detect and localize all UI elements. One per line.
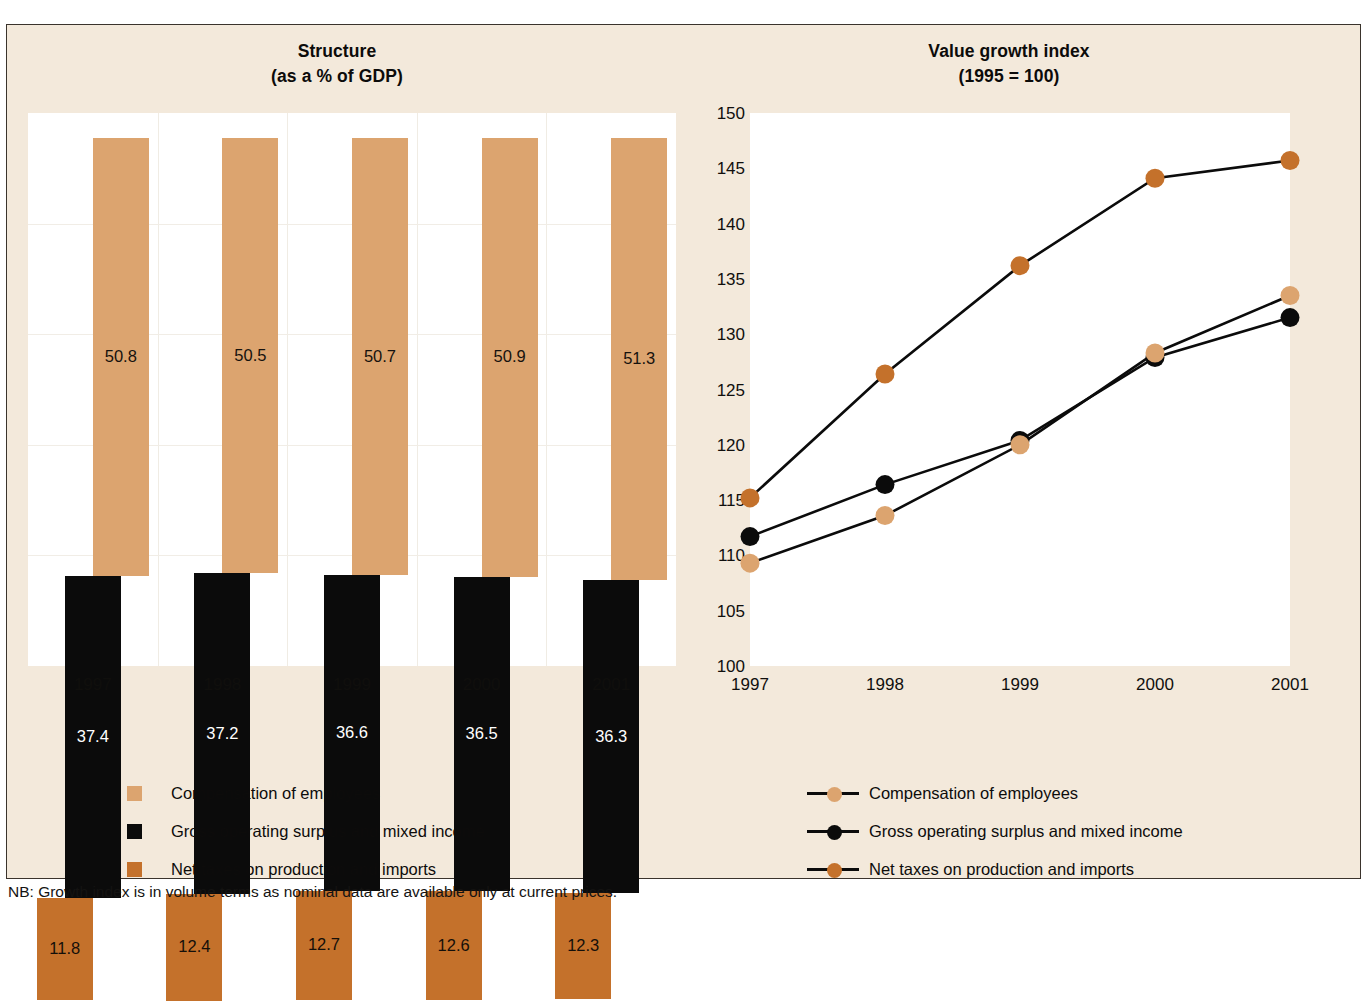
right-chart-x-label-1998: 1998 <box>840 675 930 695</box>
right-chart-lines <box>7 25 1371 880</box>
right-chart-x-label-1999: 1999 <box>975 675 1065 695</box>
right-chart-legend: Compensation of employees Gross operatin… <box>807 777 1347 891</box>
legend-item-gross-operating-surplus-line[interactable]: Gross operating surplus and mixed income <box>807 815 1347 853</box>
right-chart-marker-net-taxes-on-production-and-imports-2000 <box>1146 169 1165 188</box>
right-chart-x-label-2001: 2001 <box>1245 675 1335 695</box>
legend-marker-net-taxes <box>827 863 842 878</box>
legend-marker-gross-operating-surplus <box>827 825 842 840</box>
left-chart-bar-value-net-taxes: 12.7 <box>296 936 352 953</box>
right-chart-marker-compensation-of-employees-1997 <box>741 554 760 573</box>
left-chart-bar-segment-net-taxes: 12.7 <box>296 891 352 1000</box>
left-chart-bar-value-net-taxes: 12.6 <box>426 937 482 954</box>
left-chart-bar-value-net-taxes: 12.4 <box>166 938 222 955</box>
legend-label-gross-operating-surplus-line: Gross operating surplus and mixed income <box>869 823 1183 840</box>
legend-swatch-compensation <box>127 786 142 801</box>
right-chart-marker-net-taxes-on-production-and-imports-1997 <box>741 488 760 507</box>
left-chart-bar-segment-net-taxes: 12.6 <box>426 891 482 1000</box>
right-chart-x-label-2000: 2000 <box>1110 675 1200 695</box>
legend-marker-compensation <box>827 787 842 802</box>
right-chart-marker-compensation-of-employees-1999 <box>1011 435 1030 454</box>
legend-label-net-taxes: Net taxes on production and imports <box>171 861 436 878</box>
legend-item-net-taxes-line[interactable]: Net taxes on production and imports <box>807 853 1347 891</box>
left-chart-bar-segment-net-taxes: 12.3 <box>555 893 611 999</box>
right-chart-marker-gross-operating-surplus-and-mixed-income-1997 <box>741 527 760 546</box>
legend-label-gross-operating-surplus: Gross operating surplus and mixed income <box>171 823 485 840</box>
right-chart-marker-compensation-of-employees-1998 <box>876 506 895 525</box>
figure-panel: Structure (as a % of GDP) Value growth i… <box>6 24 1361 879</box>
legend-label-compensation-line: Compensation of employees <box>869 785 1078 802</box>
right-chart-marker-compensation-of-employees-2000 <box>1146 344 1165 363</box>
legend-swatch-net-taxes <box>127 862 142 877</box>
right-chart-x-label-1997: 1997 <box>705 675 795 695</box>
left-chart-bar-value-net-taxes: 11.8 <box>37 940 93 957</box>
right-chart-marker-gross-operating-surplus-and-mixed-income-1998 <box>876 475 895 494</box>
right-chart-marker-net-taxes-on-production-and-imports-1999 <box>1011 256 1030 275</box>
legend-item-compensation-line[interactable]: Compensation of employees <box>807 777 1347 815</box>
legend-item-gross-operating-surplus[interactable]: Gross operating surplus and mixed income <box>127 815 667 853</box>
left-chart-legend: Compensation of employees Gross operatin… <box>127 777 667 891</box>
right-chart-marker-net-taxes-on-production-and-imports-1998 <box>876 365 895 384</box>
left-chart-bar-segment-net-taxes: 11.8 <box>37 898 93 1000</box>
legend-swatch-gross-operating-surplus <box>127 824 142 839</box>
legend-label-compensation: Compensation of employees <box>171 785 380 802</box>
figure-panel-inner: Structure (as a % of GDP) Value growth i… <box>7 25 1360 878</box>
right-chart-line-gross-operating-surplus-and-mixed-income <box>750 318 1290 537</box>
figure-footnote: NB: Growth index is in volume terms as n… <box>8 884 617 900</box>
legend-label-net-taxes-line: Net taxes on production and imports <box>869 861 1134 878</box>
top-edge-clip <box>0 0 1371 6</box>
right-chart-marker-gross-operating-surplus-and-mixed-income-2001 <box>1281 308 1300 327</box>
right-chart-line-compensation-of-employees <box>750 295 1290 563</box>
right-chart-marker-compensation-of-employees-2001 <box>1281 286 1300 305</box>
left-chart-bar-segment-net-taxes: 12.4 <box>166 894 222 1001</box>
right-chart-marker-net-taxes-on-production-and-imports-2001 <box>1281 151 1300 170</box>
left-chart-bar-value-net-taxes: 12.3 <box>555 937 611 954</box>
legend-item-compensation[interactable]: Compensation of employees <box>127 777 667 815</box>
